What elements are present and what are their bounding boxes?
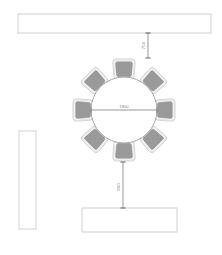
chair-seat-pad bbox=[157, 102, 172, 119]
bottom-clearance-label: 800 bbox=[116, 183, 121, 191]
chair-seat-pad bbox=[116, 62, 133, 77]
left-counter bbox=[19, 131, 36, 229]
diameter-dimension-label: 1800 bbox=[119, 104, 129, 109]
bottom-clearance-dimension: 800 bbox=[116, 162, 126, 208]
chair-3 bbox=[155, 99, 175, 121]
chair-5 bbox=[113, 141, 135, 161]
top-counter bbox=[18, 14, 211, 33]
top-clearance-dimension: 750 bbox=[141, 33, 151, 58]
floor-plan-canvas: 1800 750 800 bbox=[0, 0, 222, 255]
plan-drawing: 1800 750 800 bbox=[0, 0, 222, 255]
top-clearance-label: 750 bbox=[141, 41, 146, 49]
chair-1 bbox=[113, 59, 135, 79]
bottom-counter bbox=[82, 208, 177, 232]
chair-seat-pad bbox=[116, 143, 133, 158]
chair-7 bbox=[73, 99, 93, 121]
chair-seat-pad bbox=[76, 102, 91, 119]
